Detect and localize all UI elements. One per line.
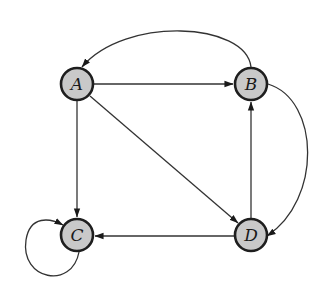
node-a-label: A (69, 74, 83, 94)
directed-graph-diagram: A B C D (0, 0, 331, 287)
node-a: A (61, 68, 93, 100)
node-d-label: D (243, 225, 258, 245)
node-b: B (235, 68, 267, 100)
node-b-label: B (244, 74, 258, 94)
edge-b-to-d-arc (267, 84, 308, 236)
node-d: D (235, 219, 267, 251)
node-c: C (61, 219, 93, 251)
node-c-label: C (70, 225, 83, 245)
edge-b-to-a-arc (82, 31, 251, 67)
edge-a-to-d (90, 96, 238, 223)
